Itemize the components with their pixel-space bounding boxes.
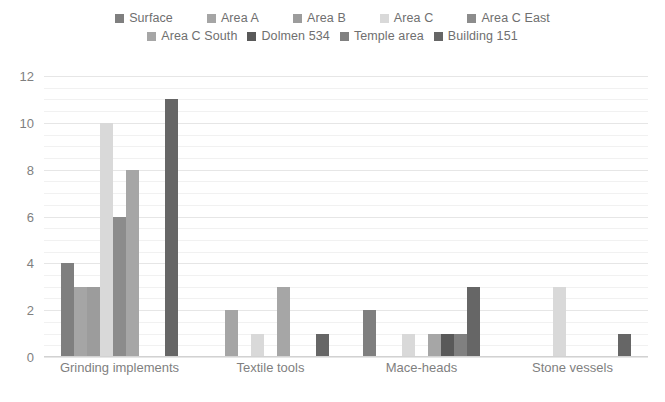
x-axis-label: Textile tools — [195, 360, 346, 375]
bar-surface[interactable] — [61, 263, 74, 357]
bar-building-151[interactable] — [618, 334, 631, 357]
legend-row-1: SurfaceArea AArea BArea CArea C East — [115, 12, 550, 25]
y-axis-tick-label: 10 — [20, 116, 34, 129]
bar-groups — [44, 76, 648, 357]
legend-item-label: Area A — [221, 12, 259, 25]
bar-area-c[interactable] — [553, 287, 566, 357]
y-axis-tick-label: 4 — [27, 257, 34, 270]
bar-area-c-south[interactable] — [277, 287, 290, 357]
y-axis-ticks: 024681012 — [0, 76, 40, 357]
bar-area-c-south[interactable] — [428, 334, 441, 357]
legend-item-area-b[interactable]: Area B — [293, 12, 346, 25]
y-axis-tick-label: 2 — [27, 304, 34, 317]
bar-surface[interactable] — [363, 310, 376, 357]
x-axis-label: Mace-heads — [346, 360, 497, 375]
legend-item-label: Surface — [129, 12, 173, 25]
legend-item-label: Dolmen 534 — [261, 30, 329, 43]
bar-area-c-south[interactable] — [126, 170, 139, 357]
legend-item-label: Area C East — [481, 12, 550, 25]
legend-swatch-icon — [340, 32, 349, 41]
legend-item-label: Building 151 — [448, 30, 518, 43]
bar-temple-area[interactable] — [454, 334, 467, 357]
legend-item-area-a[interactable]: Area A — [207, 12, 259, 25]
bar-area-a[interactable] — [74, 287, 87, 357]
legend-item-area-c-south[interactable]: Area C South — [147, 30, 237, 43]
x-axis-line — [44, 356, 648, 357]
bar-group-stone-vessels — [497, 76, 648, 357]
legend-item-label: Area C — [394, 12, 434, 25]
chart-legend: SurfaceArea AArea BArea CArea C East Are… — [0, 12, 665, 43]
bar-dolmen-534[interactable] — [441, 334, 454, 357]
bar-group-grinding-implements — [44, 76, 195, 357]
legend-swatch-icon — [115, 14, 124, 23]
bar-area-c[interactable] — [402, 334, 415, 357]
y-axis-tick-label: 12 — [20, 70, 34, 83]
bar-building-151[interactable] — [316, 334, 329, 357]
bar-building-151[interactable] — [467, 287, 480, 357]
legend-item-area-c[interactable]: Area C — [380, 12, 434, 25]
bar-area-a[interactable] — [225, 310, 238, 357]
legend-swatch-icon — [247, 32, 256, 41]
bar-area-b[interactable] — [87, 287, 100, 357]
bar-group-textile-tools — [195, 76, 346, 357]
bar-chart: SurfaceArea AArea BArea CArea C East Are… — [0, 0, 665, 402]
legend-swatch-icon — [293, 14, 302, 23]
legend-swatch-icon — [467, 14, 476, 23]
legend-swatch-icon — [380, 14, 389, 23]
legend-item-surface[interactable]: Surface — [115, 12, 173, 25]
plot-area — [44, 76, 648, 357]
legend-item-area-c-east[interactable]: Area C East — [467, 12, 550, 25]
bar-building-151[interactable] — [165, 99, 178, 357]
x-axis-labels: Grinding implementsTextile toolsMace-hea… — [44, 360, 648, 375]
legend-item-label: Temple area — [354, 30, 424, 43]
legend-item-temple-area[interactable]: Temple area — [340, 30, 424, 43]
legend-item-dolmen-534[interactable]: Dolmen 534 — [247, 30, 329, 43]
gridline-major — [44, 357, 648, 358]
bar-area-c-east[interactable] — [113, 217, 126, 358]
y-axis-tick-label: 6 — [27, 210, 34, 223]
bar-group-mace-heads — [346, 76, 497, 357]
bar-area-c[interactable] — [100, 123, 113, 357]
y-axis-tick-label: 0 — [27, 351, 34, 364]
y-axis-tick-label: 8 — [27, 163, 34, 176]
x-axis-label: Stone vessels — [497, 360, 648, 375]
legend-item-label: Area C South — [161, 30, 237, 43]
bar-area-c[interactable] — [251, 334, 264, 357]
legend-swatch-icon — [207, 14, 216, 23]
legend-item-label: Area B — [307, 12, 346, 25]
legend-swatch-icon — [434, 32, 443, 41]
legend-item-building-151[interactable]: Building 151 — [434, 30, 518, 43]
legend-swatch-icon — [147, 32, 156, 41]
legend-row-2: Area C SouthDolmen 534Temple areaBuildin… — [147, 30, 518, 43]
x-axis-label: Grinding implements — [44, 360, 195, 375]
